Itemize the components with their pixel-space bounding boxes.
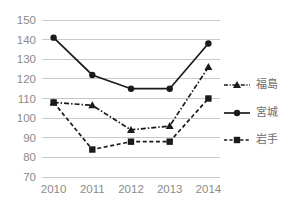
data-point-square-marker [128, 138, 134, 144]
data-point-circle-marker [205, 40, 211, 46]
chart-canvas: 708090100110120130140150 201020112012201… [0, 0, 285, 209]
x-axis-tick-label: 2010 [41, 183, 67, 195]
data-point-square-marker [166, 138, 172, 144]
chart-legend: 福島宮城岩手 [224, 77, 278, 145]
series-宮城 [50, 34, 211, 91]
data-point-circle-marker [234, 110, 240, 116]
y-axis-tick-label: 150 [17, 14, 36, 26]
data-point-square-marker [205, 95, 211, 101]
line-chart: 708090100110120130140150 201020112012201… [0, 0, 285, 209]
x-axis-tick-label: 2012 [118, 183, 144, 195]
gridlines [42, 20, 220, 177]
legend-item-宮城[interactable]: 宮城 [224, 105, 278, 118]
data-point-triangle-marker [204, 63, 212, 70]
x-axis-tick-labels: 20102011201220132014 [41, 183, 222, 195]
y-axis-tick-label: 90 [23, 132, 36, 144]
data-point-circle-marker [166, 85, 172, 91]
y-axis-tick-label: 130 [17, 53, 36, 65]
legend-item-label: 福島 [256, 77, 278, 90]
legend-item-福島[interactable]: 福島 [224, 77, 278, 90]
y-axis-tick-label: 140 [17, 34, 36, 46]
x-axis-tick-label: 2013 [157, 183, 183, 195]
x-axis-tick-label: 2011 [80, 183, 105, 195]
data-point-square-marker [50, 99, 56, 105]
data-point-square-marker [234, 137, 240, 143]
y-axis-tick-label: 70 [23, 171, 36, 183]
y-axis-tick-label: 80 [23, 151, 36, 163]
legend-item-label: 岩手 [256, 132, 278, 145]
data-series [50, 34, 213, 152]
data-point-circle-marker [128, 85, 134, 91]
y-axis-tick-label: 120 [17, 73, 36, 85]
series-line [54, 38, 209, 89]
x-axis-tick-label: 2014 [196, 183, 222, 195]
y-axis-tick-labels: 708090100110120130140150 [17, 14, 36, 183]
y-axis-tick-label: 100 [17, 112, 36, 124]
data-point-circle-marker [50, 34, 56, 40]
y-axis-tick-label: 110 [18, 93, 36, 105]
data-point-square-marker [89, 146, 95, 152]
legend-item-label: 宮城 [256, 105, 278, 118]
data-point-circle-marker [89, 72, 95, 78]
legend-item-岩手[interactable]: 岩手 [224, 132, 278, 145]
